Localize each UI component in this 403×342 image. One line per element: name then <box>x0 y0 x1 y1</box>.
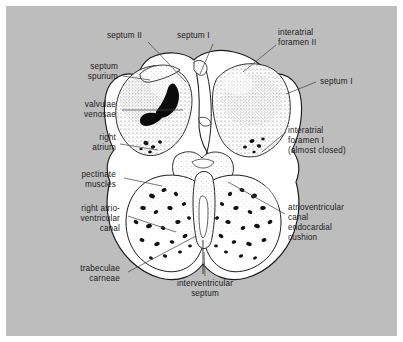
label-right-atrium-line1: right <box>22 133 116 143</box>
label-interventricular-septum-line2: septum <box>146 289 264 299</box>
label-septum-i-top: septum I <box>177 31 257 41</box>
label-right-av-canal-line3: canal <box>22 224 120 234</box>
figure-page: septum II septum I interatrial foramen I… <box>0 0 403 342</box>
label-right-atrium-line2: atrium <box>22 143 116 153</box>
label-septum-ii: septum II <box>44 31 142 41</box>
label-valvulae-venosae-line2: venosae <box>22 110 116 120</box>
label-pectinate-muscles-line2: muscles <box>22 180 116 190</box>
label-right-av-canal-line1: right atrio- <box>22 204 120 214</box>
label-av-cushion-line3: endocardial <box>288 223 400 233</box>
label-interatrial-foramen-i-line3: (almost closed) <box>288 146 400 156</box>
label-av-cushion-line4: cushion <box>288 233 400 243</box>
label-av-cushion-line2: canal <box>288 213 400 223</box>
label-septum-spurium-line2: spurium <box>24 72 118 82</box>
label-valvulae-venosae-line1: valvulae <box>22 100 116 110</box>
label-interatrial-foramen-ii-line2: foramen II <box>278 38 388 48</box>
label-interatrial-foramen-i-line1: interatrial <box>288 126 400 136</box>
label-septum-spurium-line1: septum <box>24 62 118 72</box>
label-av-cushion-line1: atrioventricular <box>288 203 400 213</box>
label-pectinate-muscles-line1: pectinate <box>22 170 116 180</box>
label-trabeculae-carneae-line1: trabeculae <box>22 264 120 274</box>
label-trabeculae-carneae-line2: carneae <box>22 274 120 284</box>
label-right-av-canal-line2: ventricular <box>22 214 120 224</box>
label-septum-i-right: septum I <box>320 77 400 87</box>
label-interatrial-foramen-i-line2: foramen I <box>288 136 400 146</box>
label-interventricular-septum-line1: interventricular <box>146 279 264 289</box>
label-interatrial-foramen-ii-line1: interatrial <box>278 28 388 38</box>
